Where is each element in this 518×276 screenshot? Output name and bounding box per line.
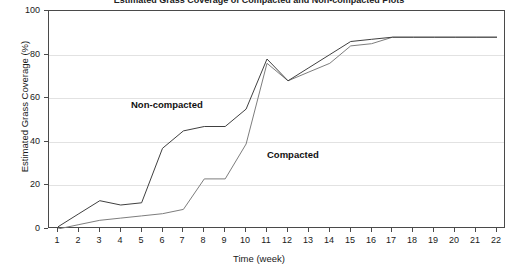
x-axis-tick-label: 1 <box>47 235 67 245</box>
x-axis-tick-label: 16 <box>361 235 381 245</box>
x-axis-tick-label: 5 <box>131 235 151 245</box>
x-axis-tick-label: 8 <box>193 235 213 245</box>
x-axis-tick-label: 13 <box>298 235 318 245</box>
x-axis-tick-label: 19 <box>423 235 443 245</box>
chart-page: Estimated Grass Coverage of Compacted an… <box>0 0 518 276</box>
x-axis-tick-label: 4 <box>110 235 130 245</box>
line-non-compacted <box>58 37 497 227</box>
y-axis-tick-label: 40 <box>14 137 40 146</box>
x-axis-tick-label: 2 <box>68 235 88 245</box>
x-axis-tick-label: 17 <box>381 235 401 245</box>
x-axis-tick-label: 20 <box>444 235 464 245</box>
y-axis-tick-label: 20 <box>14 180 40 189</box>
series-lines <box>49 11 506 229</box>
y-axis-tick <box>44 228 48 229</box>
x-axis-tick-label: 12 <box>277 235 297 245</box>
x-axis-tick-label: 11 <box>256 235 276 245</box>
y-axis-tick-label: 60 <box>14 93 40 102</box>
y-axis-tick-label: 100 <box>14 6 40 15</box>
line-compacted <box>58 37 497 229</box>
x-axis-tick-label: 22 <box>486 235 506 245</box>
clipped-chart-title: Estimated Grass Coverage of Compacted an… <box>0 0 518 7</box>
plot-area: Non-compacted Compacted <box>48 10 505 228</box>
x-axis-tick-label: 9 <box>214 235 234 245</box>
y-axis-tick-label: 80 <box>14 50 40 59</box>
x-axis-tick-label: 15 <box>340 235 360 245</box>
x-axis-tick-label: 6 <box>152 235 172 245</box>
x-axis-tick-label: 7 <box>172 235 192 245</box>
series-label-compacted: Compacted <box>267 149 319 160</box>
series-label-non-compacted: Non-compacted <box>131 99 203 110</box>
y-axis-title: Estimated Grass Coverage (%) <box>19 17 30 197</box>
x-axis-tick-label: 18 <box>402 235 422 245</box>
x-axis-tick-label: 14 <box>319 235 339 245</box>
y-axis-tick-label: 0 <box>14 224 40 233</box>
x-axis-tick-label: 10 <box>235 235 255 245</box>
x-axis-tick-label: 21 <box>465 235 485 245</box>
x-axis-tick-label: 3 <box>89 235 109 245</box>
x-axis-title: Time (week) <box>0 253 518 264</box>
